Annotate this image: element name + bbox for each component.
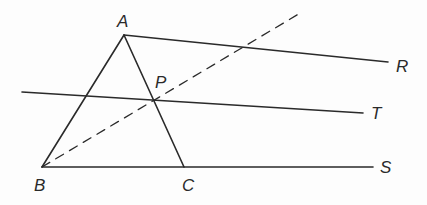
- label-S: S: [380, 158, 392, 177]
- label-P: P: [155, 73, 167, 92]
- label-B: B: [34, 176, 45, 195]
- label-T: T: [371, 104, 383, 123]
- line-through-P-to-T: [22, 92, 363, 113]
- label-A: A: [116, 12, 128, 31]
- geometry-diagram: A B C P R T S: [0, 0, 427, 205]
- segment-AB: [42, 35, 124, 167]
- label-C: C: [182, 176, 195, 195]
- label-R: R: [396, 57, 408, 76]
- diagram-canvas: A B C P R T S: [0, 0, 427, 205]
- dashed-line-BP: [42, 12, 302, 167]
